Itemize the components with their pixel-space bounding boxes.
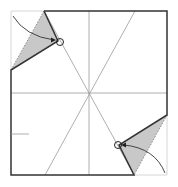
fold-diagram bbox=[0, 0, 178, 187]
flap-top-left bbox=[11, 11, 58, 70]
